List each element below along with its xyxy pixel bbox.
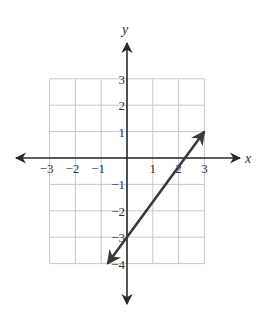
x-tick-label: −3: [40, 161, 54, 176]
y-tick-label: 2: [119, 98, 126, 113]
y-tick-label: 1: [119, 125, 126, 140]
x-tick-label: 3: [201, 161, 208, 176]
x-tick-label: −2: [65, 161, 79, 176]
coordinate-plane: x y −3−2−1123 321−1−2−3−4: [0, 0, 268, 313]
y-axis-label: y: [120, 22, 129, 37]
x-tick-label: −1: [91, 161, 105, 176]
y-tick-label: −4: [111, 257, 125, 272]
x-tick-label: 1: [150, 161, 157, 176]
plotted-line: [108, 132, 205, 264]
y-tick-label: −2: [111, 204, 125, 219]
x-axis-label: x: [244, 151, 252, 166]
y-tick-label: −1: [111, 177, 125, 192]
y-tick-label: 3: [119, 72, 126, 87]
